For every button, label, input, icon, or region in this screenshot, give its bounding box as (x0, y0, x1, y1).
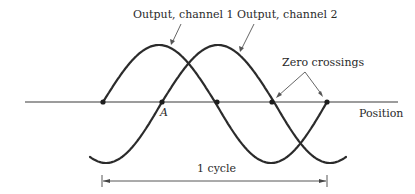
zero-crossings-label: Zero crossings (282, 56, 365, 69)
zero-crossing-dot (214, 99, 219, 104)
cycle-dimension (102, 175, 327, 187)
channel-1-pointer (170, 24, 181, 45)
arrowhead-icon (170, 39, 175, 45)
point-a-label: A (159, 106, 168, 119)
arrowhead-icon (318, 91, 323, 97)
arrowhead-icon (239, 46, 244, 52)
arrow-left-icon (103, 179, 110, 183)
channel-1-label: Output, channel 1 (133, 8, 234, 21)
arrow-right-icon (319, 179, 326, 183)
zero-crossing-dot (159, 99, 164, 104)
channel-2-label: Output, channel 2 (237, 8, 338, 21)
zero-crossing-dot (324, 99, 329, 104)
cycle-label: 1 cycle (197, 162, 236, 175)
zero-crossings-pointer (276, 72, 323, 98)
zero-crossing-dot (100, 99, 105, 104)
sinusoidal-encoder-diagram: Output, channel 1 Output, channel 2 Zero… (0, 0, 415, 194)
channel-2-pointer (239, 24, 254, 52)
zero-crossing-dot (269, 99, 274, 104)
position-axis-label: Position (359, 107, 403, 120)
